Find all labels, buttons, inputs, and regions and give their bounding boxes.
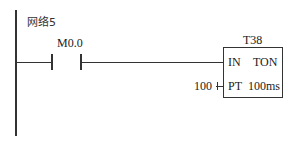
left-power-rail: [15, 10, 17, 136]
timer-in-label: IN: [228, 56, 241, 68]
pt-input-tick-icon: [217, 82, 218, 90]
contact-address: M0.0: [57, 37, 83, 49]
rung-wire-left: [16, 62, 51, 63]
contact-left-bar-icon: [51, 54, 53, 70]
rung-wire-right: [81, 62, 223, 63]
timer-resolution: 100ms: [248, 80, 280, 92]
timer-type-label: TON: [253, 56, 277, 68]
timer-preset-value[interactable]: 100: [194, 80, 212, 92]
timer-pt-label: PT: [228, 80, 242, 92]
network-label: 网络5: [27, 13, 56, 29]
timer-name: T38: [243, 34, 262, 46]
